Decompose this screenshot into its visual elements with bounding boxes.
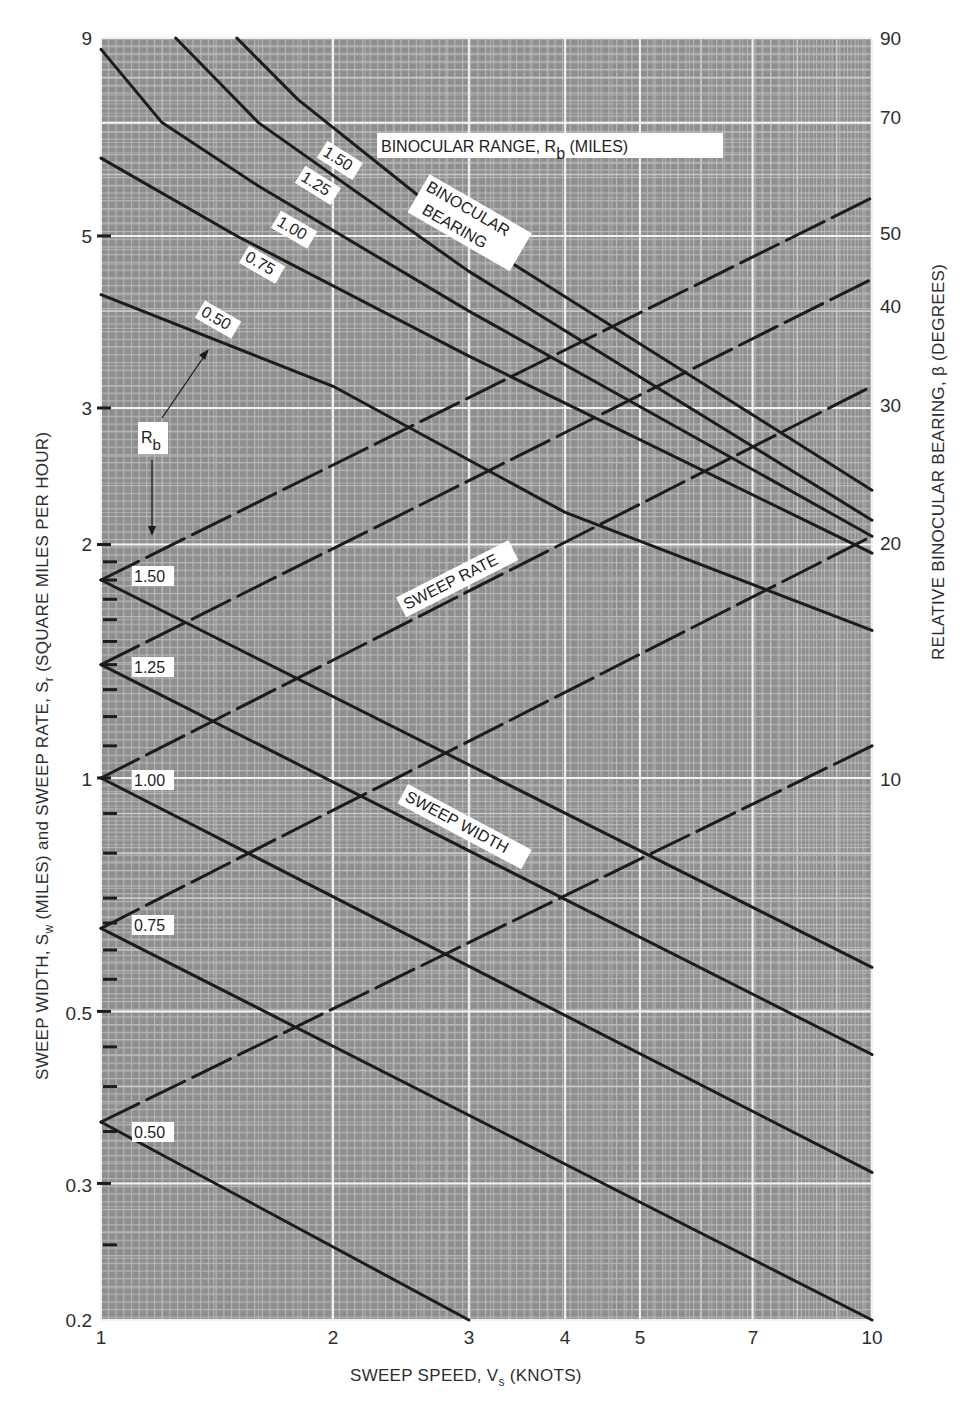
right-tick-40: 40 xyxy=(880,296,901,317)
right-tick-10: 10 xyxy=(880,769,901,790)
svg-text:1.00: 1.00 xyxy=(134,772,165,789)
x-tick-4: 4 xyxy=(560,1327,571,1348)
right-tick-90: 90 xyxy=(880,28,901,49)
x-tick-1: 1 xyxy=(96,1327,107,1348)
nomogram-chart: 9 5 3 2 1 0.5 0.3 0.2 90 70 50 40 30 20 … xyxy=(0,0,968,1408)
vertex-label-0.75: 0.75 xyxy=(132,915,174,935)
right-axis-tick-labels: 90 70 50 40 30 20 10 xyxy=(880,28,901,790)
vertex-label-0.50: 0.50 xyxy=(132,1122,174,1142)
right-tick-30: 30 xyxy=(880,395,901,416)
right-tick-20: 20 xyxy=(880,533,901,554)
y-tick-1: 1 xyxy=(81,769,92,790)
svg-text:0.75: 0.75 xyxy=(134,917,165,934)
right-axis-title: RELATIVE BINOCULAR BEARING, β (DEGREES) xyxy=(929,264,948,660)
svg-text:1.25: 1.25 xyxy=(134,659,165,676)
y-tick-0.5: 0.5 xyxy=(66,1003,92,1024)
y-tick-3: 3 xyxy=(81,398,92,419)
y-tick-5: 5 xyxy=(81,226,92,247)
right-tick-50: 50 xyxy=(880,223,901,244)
left-axis-title: SWEEP WIDTH, Sw (MILES) and SWEEP RATE, … xyxy=(33,432,56,1080)
x-tick-3: 3 xyxy=(464,1327,475,1348)
x-tick-2: 2 xyxy=(328,1327,339,1348)
vertex-label-1.00: 1.00 xyxy=(132,770,174,790)
x-tick-10: 10 xyxy=(861,1327,882,1348)
binocular-range-title: BINOCULAR RANGE, Rb (MILES) xyxy=(377,133,723,162)
x-tick-7: 7 xyxy=(748,1327,759,1348)
svg-text:0.50: 0.50 xyxy=(134,1124,165,1141)
x-axis-title: SWEEP SPEED, Vs (KNOTS) xyxy=(350,1366,582,1389)
right-tick-70: 70 xyxy=(880,107,901,128)
y-tick-0.3: 0.3 xyxy=(66,1175,92,1196)
vertex-label-1.25: 1.25 xyxy=(132,657,174,677)
x-axis-tick-labels: 1 2 3 4 5 7 10 xyxy=(96,1327,883,1348)
y-tick-9: 9 xyxy=(81,28,92,49)
vertex-label-1.50: 1.50 xyxy=(132,566,174,586)
y-tick-2: 2 xyxy=(81,534,92,555)
x-tick-5: 5 xyxy=(635,1327,646,1348)
left-axis-tick-labels: 9 5 3 2 1 0.5 0.3 0.2 xyxy=(66,28,92,1331)
y-tick-0.2: 0.2 xyxy=(66,1310,92,1331)
svg-text:1.50: 1.50 xyxy=(134,568,165,585)
